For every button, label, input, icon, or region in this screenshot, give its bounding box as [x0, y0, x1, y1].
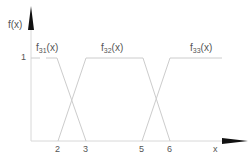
x-axis-label: x [213, 145, 218, 154]
y-tick-label-1: 1 [21, 53, 26, 62]
series-label-f31: f31(x) [36, 43, 58, 53]
series-f32-line [58, 58, 170, 141]
series-label-f33-sub: 33 [193, 47, 201, 54]
membership-function-chart [0, 0, 252, 158]
x-tick-label-3: 3 [83, 145, 88, 154]
series-f33-line [142, 58, 222, 141]
y-axis-arrow-icon [28, 6, 34, 30]
x-tick-label-6: 6 [167, 145, 172, 154]
series-label-f32: f32(x) [101, 43, 123, 53]
series-label-f31-sub: 31 [39, 47, 47, 54]
x-axis-arrow-icon [222, 138, 248, 144]
y-axis-label: f(x) [8, 20, 22, 30]
x-tick-label-5: 5 [139, 145, 144, 154]
series-f31-line-main [46, 58, 86, 141]
series-label-f33-tail: (x) [201, 42, 213, 53]
series-label-f32-tail: (x) [112, 42, 124, 53]
series-label-f31-tail: (x) [47, 42, 59, 53]
series-label-f33: f33(x) [190, 43, 212, 53]
series-label-f32-sub: 32 [104, 47, 112, 54]
x-tick-label-2: 2 [55, 145, 60, 154]
